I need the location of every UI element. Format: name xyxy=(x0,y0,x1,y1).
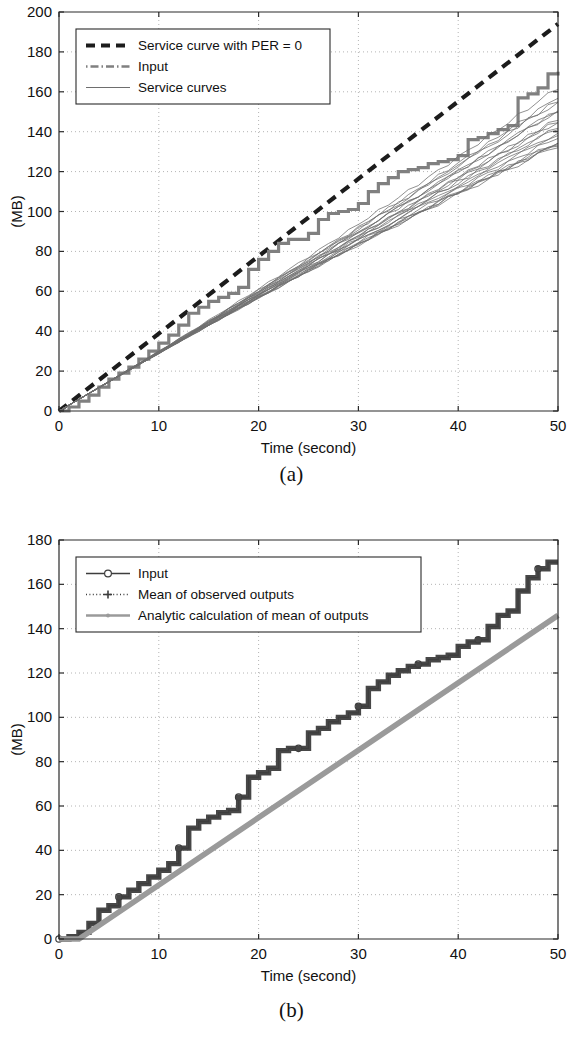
y-tick-label: 20 xyxy=(35,362,52,379)
legend-item-label: Service curves xyxy=(138,80,227,95)
chart-panel-a: 02040608010012014016018020001020304050Ti… xyxy=(0,0,583,520)
subfigure-caption-b: (b) xyxy=(0,998,583,1023)
y-axis-title: (MB) xyxy=(8,723,25,756)
x-tick-label: 20 xyxy=(250,417,267,434)
y-tick-label: 180 xyxy=(27,531,52,548)
series-2-service-curve-line xyxy=(59,136,558,411)
y-tick-label: 80 xyxy=(35,242,52,259)
x-tick-label: 10 xyxy=(150,417,167,434)
y-tick-label: 60 xyxy=(35,797,52,814)
x-axis-title: Time (second) xyxy=(261,439,356,456)
plot-area-panel-b: 02040608010012014016018001020304050Time … xyxy=(8,531,566,984)
y-tick-label: 20 xyxy=(35,886,52,903)
x-tick-label: 10 xyxy=(150,945,167,962)
series-2-service-curve-line xyxy=(59,102,558,411)
y-tick-label: 140 xyxy=(27,620,52,637)
series-2-service-curve-line xyxy=(59,102,558,411)
legend-item-label: Mean of observed outputs xyxy=(138,587,294,602)
y-tick-label: 160 xyxy=(27,83,52,100)
subfigure-caption-a: (a) xyxy=(0,462,583,487)
y-tick-label: 0 xyxy=(44,402,52,419)
y-tick-label: 0 xyxy=(44,930,52,947)
x-tick-label: 30 xyxy=(350,417,367,434)
x-tick-label: 20 xyxy=(250,945,267,962)
x-tick-label: 0 xyxy=(55,945,63,962)
x-tick-label: 30 xyxy=(350,945,367,962)
legend-item-label: Analytic calculation of mean of outputs xyxy=(138,608,369,623)
chart-a-svg: 02040608010012014016018020001020304050Ti… xyxy=(0,0,583,460)
y-tick-label: 160 xyxy=(27,575,52,592)
legend-item-label: Input xyxy=(138,566,168,581)
x-tick-label: 50 xyxy=(550,945,567,962)
x-tick-label: 40 xyxy=(450,417,467,434)
y-tick-label: 80 xyxy=(35,753,52,770)
x-tick-label: 0 xyxy=(55,417,63,434)
figure-container: 02040608010012014016018020001020304050Ti… xyxy=(0,0,583,1046)
x-tick-label: 50 xyxy=(550,417,567,434)
y-tick-label: 200 xyxy=(27,3,52,20)
y-tick-label: 180 xyxy=(27,43,52,60)
legend: InputMean of observed outputsAnalytic ca… xyxy=(76,557,421,632)
chart-panel-b: 02040608010012014016018001020304050Time … xyxy=(0,528,583,1046)
x-axis-title: Time (second) xyxy=(261,967,356,984)
plot-area-panel-a: 02040608010012014016018020001020304050Ti… xyxy=(8,3,566,456)
y-tick-label: 100 xyxy=(27,708,52,725)
legend-marker-circle-icon xyxy=(105,570,112,577)
y-tick-label: 120 xyxy=(27,163,52,180)
y-tick-label: 140 xyxy=(27,123,52,140)
legend-item-label: Input xyxy=(138,59,168,74)
y-axis-title: (MB) xyxy=(8,195,25,228)
x-tick-label: 40 xyxy=(450,945,467,962)
y-tick-label: 100 xyxy=(27,203,52,220)
legend: Service curve with PER = 0InputService c… xyxy=(76,29,330,104)
y-tick-label: 40 xyxy=(35,841,52,858)
y-tick-label: 120 xyxy=(27,664,52,681)
y-tick-label: 40 xyxy=(35,322,52,339)
y-tick-label: 60 xyxy=(35,282,52,299)
series-2-service-curve-line xyxy=(59,98,558,411)
series-1-input-staircase xyxy=(59,72,558,411)
chart-b-svg: 02040608010012014016018001020304050Time … xyxy=(0,528,583,988)
legend-item-label: Service curve with PER = 0 xyxy=(138,38,302,53)
legend-marker-dot-icon xyxy=(106,614,110,618)
